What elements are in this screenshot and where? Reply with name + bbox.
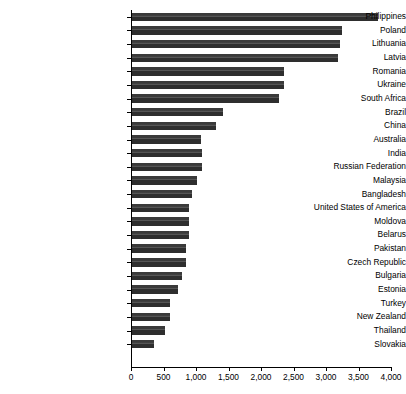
category-label: Moldova — [282, 217, 406, 225]
bar — [131, 258, 186, 266]
bar — [131, 149, 202, 157]
category-label: Bulgaria — [282, 271, 406, 279]
bar — [131, 204, 189, 212]
bar — [131, 272, 182, 280]
category-label: India — [282, 149, 406, 157]
x-tick-label: 1,500 — [218, 373, 239, 382]
category-label: Ukraine — [282, 80, 406, 88]
category-label: China — [282, 121, 406, 129]
category-tick — [127, 208, 131, 209]
bar — [131, 340, 154, 348]
category-label: Estonia — [282, 285, 406, 293]
category-tick — [127, 249, 131, 250]
category-tick — [127, 85, 131, 86]
x-tick-label: 3,000 — [316, 373, 337, 382]
category-label: South Africa — [282, 94, 406, 102]
category-tick — [127, 221, 131, 222]
bar — [131, 67, 284, 75]
category-tick — [127, 58, 131, 59]
category-tick — [127, 344, 131, 345]
category-label: Bangladesh — [282, 190, 406, 198]
category-label: Lithuania — [282, 39, 406, 47]
x-tick — [196, 367, 197, 371]
category-tick — [127, 44, 131, 45]
x-tick — [131, 367, 132, 371]
category-label: New Zealand — [282, 312, 406, 320]
bar — [131, 81, 284, 89]
x-tick-label: 500 — [157, 373, 171, 382]
y-axis-line — [131, 10, 132, 367]
x-tick — [261, 367, 262, 371]
category-label: Belarus — [282, 230, 406, 238]
x-tick — [229, 367, 230, 371]
category-label: Pakistan — [282, 244, 406, 252]
bar — [131, 108, 223, 116]
category-tick — [127, 180, 131, 181]
category-label: Thailand — [282, 326, 406, 334]
bar — [131, 94, 279, 102]
category-tick — [127, 167, 131, 168]
bar — [131, 326, 165, 334]
category-tick — [127, 71, 131, 72]
bar — [131, 313, 170, 321]
x-tick — [326, 367, 327, 371]
category-label: Romania — [282, 67, 406, 75]
category-label: Russian Federation — [282, 162, 406, 170]
category-label: United States of America — [282, 203, 406, 211]
x-tick — [164, 367, 165, 371]
category-tick — [127, 303, 131, 304]
category-label: Brazil — [282, 108, 406, 116]
category-label: Czech Republic — [282, 258, 406, 266]
category-tick — [127, 99, 131, 100]
x-tick-label: 2,000 — [251, 373, 272, 382]
category-tick — [127, 331, 131, 332]
category-label: Slovakia — [282, 340, 406, 348]
category-tick — [127, 140, 131, 141]
x-tick-label: 4,000 — [381, 373, 402, 382]
x-tick — [391, 367, 392, 371]
category-tick — [127, 290, 131, 291]
category-label: Malaysia — [282, 176, 406, 184]
category-tick — [127, 194, 131, 195]
bar — [131, 299, 170, 307]
x-tick-label: 1,000 — [186, 373, 207, 382]
bar — [131, 231, 189, 239]
bar — [131, 176, 197, 184]
category-tick — [127, 17, 131, 18]
bar — [131, 244, 186, 252]
bar — [131, 122, 216, 130]
x-tick — [359, 367, 360, 371]
category-tick — [127, 153, 131, 154]
bar — [131, 217, 189, 225]
category-label: Latvia — [282, 53, 406, 61]
category-tick — [127, 112, 131, 113]
x-tick-label: 3,500 — [348, 373, 369, 382]
category-tick — [127, 276, 131, 277]
x-tick — [294, 367, 295, 371]
category-tick — [127, 126, 131, 127]
category-tick — [127, 30, 131, 31]
bar — [131, 190, 192, 198]
bar — [131, 135, 201, 143]
bar — [131, 163, 202, 171]
category-tick — [127, 262, 131, 263]
category-label: Philippines — [282, 12, 406, 20]
category-label: Australia — [282, 135, 406, 143]
category-tick — [127, 235, 131, 236]
x-tick-label: 2,500 — [283, 373, 304, 382]
x-tick-label: 0 — [129, 373, 134, 382]
bar — [131, 285, 178, 293]
category-label: Turkey — [282, 299, 406, 307]
bar-chart: PhilippinesPolandLithuaniaLatviaRomaniaU… — [0, 0, 406, 394]
category-tick — [127, 317, 131, 318]
category-label: Poland — [282, 26, 406, 34]
